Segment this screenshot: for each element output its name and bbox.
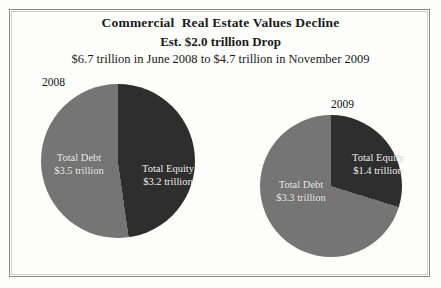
- pie-2009-debt-name: Total Debt: [258, 179, 344, 192]
- page-title: Commercial Real Estate Values Decline: [10, 14, 431, 31]
- pie-2008-debt-label: Total Debt $3.5 trillion: [33, 152, 125, 177]
- subtitle-primary: Est. $2.0 trillion Drop: [10, 33, 431, 50]
- pie-2009-equity-name: Total Equity: [335, 152, 421, 165]
- chart-screenshot: Commercial Real Estate Values Decline Es…: [0, 0, 441, 288]
- pie-2009-equity-value: $1.4 trillion: [335, 165, 421, 178]
- pie-2008-equity-value: $3.2 trillion: [122, 176, 214, 189]
- pie-2009-debt-label: Total Debt $3.3 trillion: [258, 179, 344, 204]
- title-block: Commercial Real Estate Values Decline Es…: [10, 14, 431, 68]
- pie-2008-equity-label: Total Equity $3.2 trillion: [122, 163, 214, 188]
- pie-2009-debt-value: $3.3 trillion: [258, 192, 344, 205]
- pie-2008-year-label: 2008: [42, 76, 65, 88]
- pie-2008-equity-name: Total Equity: [122, 163, 214, 176]
- pie-2008-debt-value: $3.5 trillion: [33, 165, 125, 178]
- pie-2008-debt-name: Total Debt: [33, 152, 125, 165]
- subtitle-secondary: $6.7 trillion in June 2008 to $4.7 trill…: [10, 51, 431, 68]
- pie-2009-year-label: 2009: [331, 98, 354, 110]
- pie-2009-equity-label: Total Equity $1.4 trillion: [335, 152, 421, 177]
